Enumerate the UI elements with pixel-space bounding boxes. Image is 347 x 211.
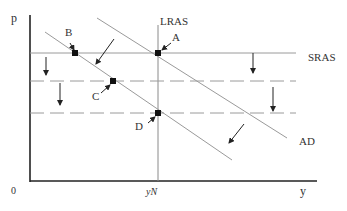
- origin-label: 0: [11, 186, 16, 196]
- point-a-label: A: [172, 32, 180, 43]
- sras-label: SRAS: [308, 52, 336, 63]
- lras-label: LRAS: [160, 16, 188, 27]
- x-tick-yn: yN: [146, 187, 157, 197]
- point-c-marker: [110, 78, 116, 84]
- ad-shift-arrows: [96, 39, 244, 143]
- point-b-label: B: [65, 27, 72, 38]
- point-a-marker: [155, 50, 161, 56]
- x-axis-label: y: [300, 185, 306, 197]
- sras-shift-arrows: [46, 53, 273, 111]
- ad-line-original: [97, 18, 287, 138]
- point-b-marker: [72, 50, 78, 56]
- point-d-label: D: [135, 121, 143, 132]
- point-d-marker: [155, 110, 161, 116]
- ad-label: AD: [299, 136, 315, 147]
- point-c-label: C: [92, 91, 99, 102]
- y-axis-label: p: [11, 12, 17, 24]
